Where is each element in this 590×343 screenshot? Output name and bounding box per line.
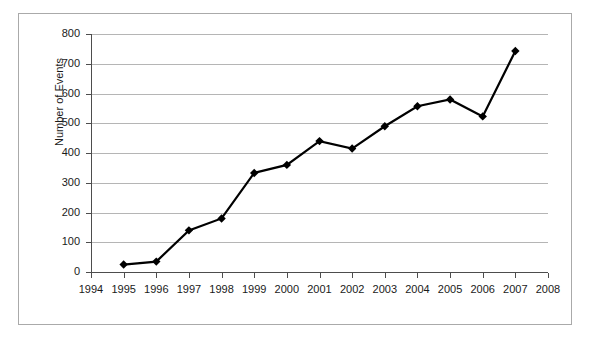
x-tick-mark [254,273,255,278]
data-point-marker [511,47,519,55]
data-point-marker [119,260,127,268]
x-tick-mark [352,273,353,278]
x-tick-mark [483,273,484,278]
x-tick-mark [548,273,549,278]
y-tick-label: 0 [36,266,80,277]
x-tick-mark [417,273,418,278]
x-tick-mark [189,273,190,278]
series-markers-group [119,47,519,269]
y-axis-title: Number of Events [53,22,65,182]
x-tick-mark [156,273,157,278]
x-tick-label: 2008 [526,284,570,295]
x-tick-mark [91,273,92,278]
x-tick-mark [320,273,321,278]
y-tick-label: 100 [36,236,80,247]
x-tick-mark [287,273,288,278]
series-polyline [124,51,516,265]
data-point-marker [446,95,454,103]
y-tick-label: 200 [36,207,80,218]
x-tick-mark [515,273,516,278]
x-tick-mark [450,273,451,278]
x-tick-mark [124,273,125,278]
x-tick-mark [222,273,223,278]
chart-figure: 0100200300400500600700800 19941995199619… [0,0,590,343]
data-series-line [91,34,548,273]
x-tick-mark [385,273,386,278]
data-point-marker [479,112,487,120]
